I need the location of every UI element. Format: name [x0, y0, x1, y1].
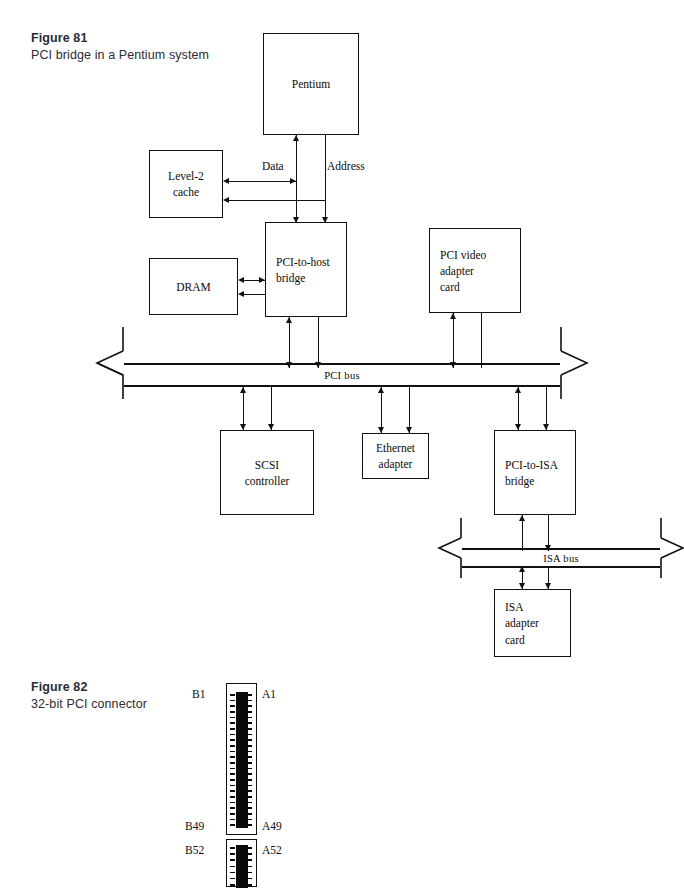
dram-address-arrow-left [238, 291, 244, 297]
pin-tick [247, 694, 252, 696]
box-pci-video-adapter-card: PCI video adapter card [429, 228, 521, 313]
pin-label-a52: A52 [262, 844, 282, 856]
bus-pci-label: PCI bus [124, 370, 560, 381]
pin-tick [247, 779, 252, 781]
cache-data-arrow-right [290, 178, 296, 184]
pin-label-b1: B1 [192, 688, 205, 700]
pin-tick [247, 734, 252, 736]
dram-address-line [244, 294, 265, 295]
video-pcibus-arrow-up [450, 313, 456, 319]
ethernet-pcibus-arrow-down-right [406, 427, 412, 433]
pin-tick [247, 700, 252, 702]
box-ethernet-adapter-label: Ethernet adapter [363, 440, 428, 473]
box-ethernet-adapter: Ethernet adapter [362, 433, 429, 479]
box-pci-to-host-bridge: PCI-to-host bridge [265, 222, 347, 317]
pin-tick [247, 796, 252, 798]
pin-tick [247, 722, 252, 724]
label-data: Data [262, 160, 284, 172]
figure-81-caption: Figure 81 PCI bridge in a Pentium system [31, 30, 209, 63]
box-pentium-label: Pentium [264, 76, 358, 92]
ethernet-pcibus-arrow-down-left [378, 427, 384, 433]
pin-tick [230, 813, 235, 815]
cache-address-arrow-left [223, 197, 229, 203]
figure-81-diagram: Figure 81 PCI bridge in a Pentium system… [0, 0, 683, 670]
bus-pci-arrow-right [560, 351, 588, 399]
pin-tick [247, 807, 252, 809]
pin-tick [247, 824, 252, 826]
bus-pci-bottom-line [124, 385, 560, 387]
pin-tick [247, 859, 252, 861]
pin-tick [230, 859, 235, 861]
box-isa-adapter-card: ISA adapter card [494, 589, 571, 657]
cache-address-line [229, 200, 325, 201]
label-address: Address [327, 160, 365, 172]
pin-tick [247, 802, 252, 804]
isabridge-pcibus-arrow-down-left [515, 424, 521, 430]
pin-tick [230, 785, 235, 787]
box-scsi-controller-label: SCSI controller [221, 456, 313, 489]
data-bus-arrow-up [293, 135, 299, 141]
pin-tick [247, 878, 252, 880]
bus-isa-arrow-left [438, 538, 462, 578]
pin-tick [230, 711, 235, 713]
bridge-pcibus-arrow-up [286, 317, 292, 323]
pin-tick [247, 847, 252, 849]
box-pci-to-isa-bridge: PCI-to-ISA bridge [494, 430, 576, 515]
data-bus-line [296, 135, 297, 224]
bridge-pcibus-line-right [318, 317, 319, 368]
pin-tick [230, 847, 235, 849]
cache-data-line [229, 181, 296, 182]
figure-81-caption-subtitle: PCI bridge in a Pentium system [31, 47, 209, 64]
bus-isa: ISA bus [462, 548, 660, 568]
pin-label-b49: B49 [185, 820, 204, 832]
pin-tick [247, 756, 252, 758]
cache-data-arrow-left [223, 178, 229, 184]
pin-tick [230, 756, 235, 758]
figure-82-caption-title: Figure 82 [31, 679, 147, 696]
pin-tick [230, 762, 235, 764]
scsi-pcibus-arrow-down-left [240, 424, 246, 430]
pin-tick [247, 785, 252, 787]
figure-81-caption-title: Figure 81 [31, 30, 209, 47]
pin-tick [247, 866, 252, 868]
bus-isa-label: ISA bus [462, 553, 660, 564]
pin-tick [230, 751, 235, 753]
pin-tick [247, 853, 252, 855]
pin-tick [247, 813, 252, 815]
pin-tick [230, 734, 235, 736]
ethernet-pcibus-arrow-up [378, 387, 384, 393]
pin-tick [247, 728, 252, 730]
pin-tick [230, 807, 235, 809]
pin-tick [247, 711, 252, 713]
pin-tick [247, 717, 252, 719]
box-dram-label: DRAM [150, 278, 237, 294]
video-pcibus-line-left [453, 313, 454, 368]
box-scsi-controller: SCSI controller [220, 430, 314, 515]
pin-tick [230, 790, 235, 792]
pin-tick [230, 739, 235, 741]
pin-tick [230, 705, 235, 707]
pin-tick [247, 762, 252, 764]
pin-tick [230, 717, 235, 719]
pin-tick [247, 768, 252, 770]
pin-tick [247, 705, 252, 707]
pin-label-b52: B52 [185, 844, 204, 856]
pin-tick [230, 728, 235, 730]
pin-tick [230, 745, 235, 747]
pin-tick [230, 819, 235, 821]
figure-82-caption: Figure 82 32-bit PCI connector [31, 679, 147, 712]
pin-tick [230, 872, 235, 874]
dram-data-arrow-left [238, 277, 244, 283]
pin-tick [230, 722, 235, 724]
pin-tick [230, 779, 235, 781]
box-dram: DRAM [149, 258, 238, 315]
box-pci-to-isa-bridge-label: PCI-to-ISA bridge [505, 456, 558, 489]
pin-tick [247, 819, 252, 821]
pin-tick [230, 853, 235, 855]
box-pci-video-adapter-card-label: PCI video adapter card [440, 246, 486, 295]
pin-tick [247, 872, 252, 874]
pin-tick [230, 796, 235, 798]
pin-label-a1: A1 [262, 688, 276, 700]
pin-tick [230, 802, 235, 804]
pin-tick [230, 773, 235, 775]
